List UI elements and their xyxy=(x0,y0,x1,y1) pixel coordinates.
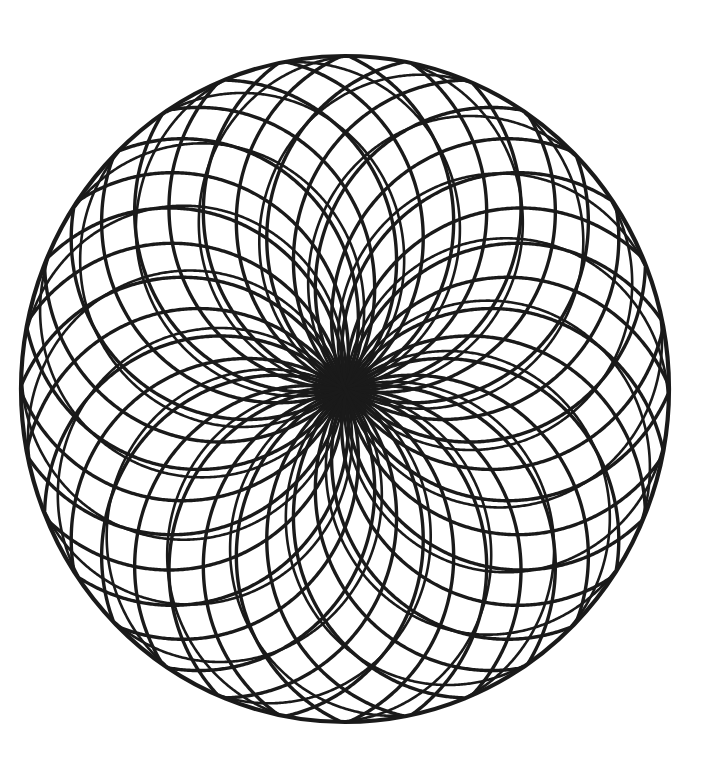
mandala-artwork xyxy=(0,0,722,768)
